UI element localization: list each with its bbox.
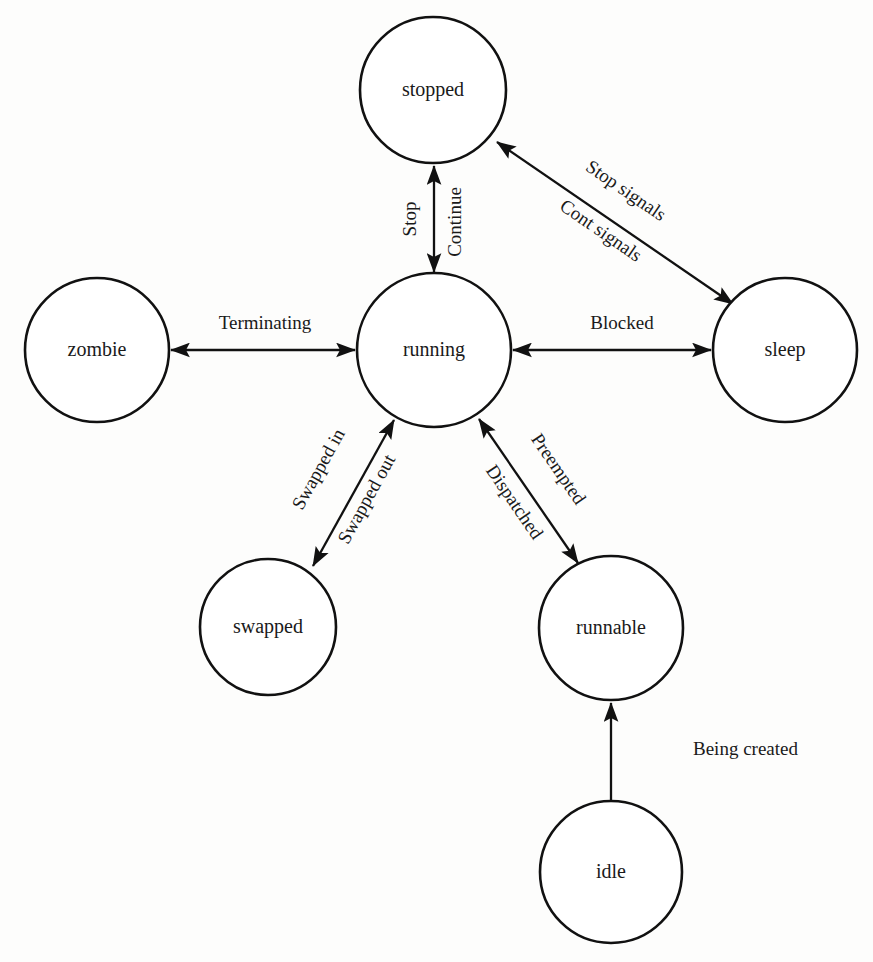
edge-label-being-created: Being created — [693, 738, 798, 759]
process-state-diagram: Stop Continue Stop signals Cont signals … — [0, 0, 873, 962]
node-label-runnable: runnable — [576, 616, 646, 638]
edge-label-continue: Continue — [444, 187, 465, 257]
edge-label-preempted: Preempted — [527, 429, 591, 508]
node-sleep[interactable]: sleep — [713, 278, 857, 422]
edge-stopped-sleep: Stop signals Cont signals — [497, 142, 733, 304]
node-running[interactable]: running — [357, 273, 511, 427]
edge-running-swapped: Swapped in Swapped out — [287, 420, 399, 566]
edge-label-swapped-in: Swapped in — [287, 424, 349, 513]
edge-running-runnable: Preempted Dispatched — [479, 419, 591, 563]
node-label-idle: idle — [596, 860, 626, 882]
node-zombie[interactable]: zombie — [25, 278, 169, 422]
edge-label-stop: Stop — [399, 202, 420, 237]
node-label-stopped: stopped — [402, 78, 464, 101]
edge-idle-runnable: Being created — [611, 703, 798, 801]
node-label-running: running — [403, 338, 465, 361]
edge-running-sleep: Blocked — [513, 312, 711, 350]
state-diagram-canvas: Stop Continue Stop signals Cont signals … — [0, 0, 873, 962]
edge-label-swapped-out: Swapped out — [333, 450, 400, 547]
edge-running-stopped: Stop Continue — [399, 166, 465, 272]
edge-label-terminating: Terminating — [219, 312, 312, 333]
edge-line-stopped-sleep — [497, 142, 733, 304]
node-label-swapped: swapped — [233, 615, 303, 638]
edge-label-blocked: Blocked — [590, 312, 654, 333]
edge-running-zombie: Terminating — [171, 312, 355, 350]
node-swapped[interactable]: swapped — [200, 559, 336, 695]
node-label-zombie: zombie — [68, 338, 127, 360]
node-label-sleep: sleep — [764, 338, 805, 361]
node-stopped[interactable]: stopped — [360, 17, 506, 163]
node-idle[interactable]: idle — [540, 801, 682, 943]
node-runnable[interactable]: runnable — [539, 556, 683, 700]
